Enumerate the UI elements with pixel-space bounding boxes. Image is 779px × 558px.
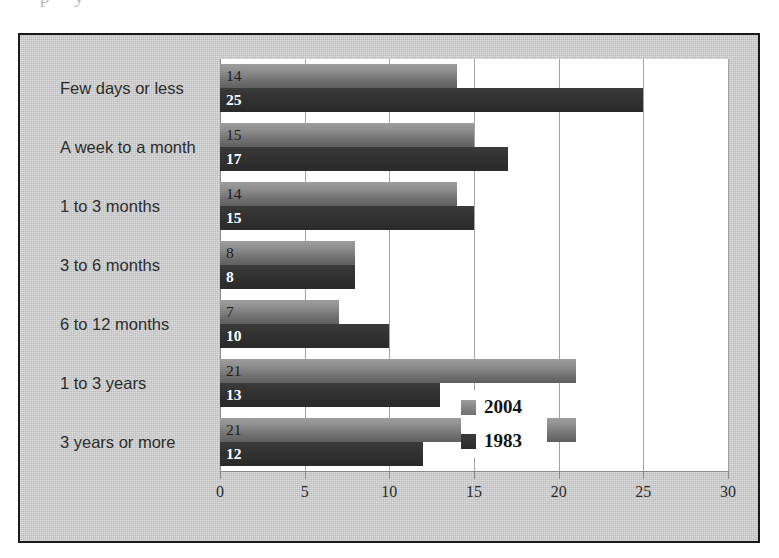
tick-0	[220, 471, 221, 479]
bar-2004: 21	[220, 359, 576, 383]
bar-1983: 12	[220, 442, 423, 466]
bar-group: 1425	[220, 64, 728, 112]
category-label: 3 years or more	[60, 427, 216, 457]
bar-value-label: 14	[226, 64, 242, 88]
bar-value-label: 21	[226, 418, 242, 442]
bar-group: 1517	[220, 123, 728, 171]
tick-label: 30	[708, 483, 748, 501]
bar-value-label: 13	[226, 383, 242, 407]
bleed-glyphs: p y	[40, 0, 94, 8]
bar-1983: 17	[220, 147, 508, 171]
legend-swatch-1983	[461, 434, 476, 449]
value-axis: 051015202530	[220, 471, 728, 517]
bar-value-label: 14	[226, 182, 242, 206]
tick-30	[728, 471, 729, 479]
bar-1983: 15	[220, 206, 474, 230]
bar-1983: 13	[220, 383, 440, 407]
category-label: A week to a month	[60, 132, 216, 162]
bar-2004: 14	[220, 182, 457, 206]
tick-label: 20	[539, 483, 579, 501]
bar-group: 710	[220, 300, 728, 348]
category-label: Few days or less	[60, 73, 216, 103]
tick-label: 5	[285, 483, 325, 501]
cut-off-text-above-figure: p y	[0, 0, 779, 16]
tick-25	[643, 471, 644, 479]
tick-label: 15	[454, 483, 494, 501]
bar-value-label: 8	[226, 241, 234, 265]
bar-group: 1415	[220, 182, 728, 230]
bar-value-label: 10	[226, 324, 242, 348]
tick-label: 25	[623, 483, 663, 501]
category-label: 6 to 12 months	[60, 309, 216, 339]
bar-value-label: 21	[226, 359, 242, 383]
tick-15	[474, 471, 475, 479]
legend-label: 1983	[484, 430, 522, 452]
bar-value-label: 7	[226, 300, 234, 324]
tick-label: 0	[200, 483, 240, 501]
category-label: 1 to 3 years	[60, 368, 216, 398]
chart-legend: 20041983	[461, 390, 547, 458]
bar-1983: 10	[220, 324, 389, 348]
category-axis: Few days or lessA week to a month1 to 3 …	[20, 59, 220, 471]
category-label: 1 to 3 months	[60, 191, 216, 221]
bar-2004: 8	[220, 241, 355, 265]
legend-swatch-2004	[461, 400, 476, 415]
tick-5	[305, 471, 306, 479]
chart-figure: Few days or lessA week to a month1 to 3 …	[18, 33, 760, 543]
gridline-30	[728, 59, 729, 471]
bar-1983: 8	[220, 265, 355, 289]
bar-value-label: 15	[226, 123, 242, 147]
bar-group: 88	[220, 241, 728, 289]
bar-value-label: 17	[226, 147, 242, 171]
legend-label: 2004	[484, 396, 522, 418]
bar-1983: 25	[220, 88, 643, 112]
tick-20	[559, 471, 560, 479]
bar-value-label: 15	[226, 206, 242, 230]
category-label: 3 to 6 months	[60, 250, 216, 280]
bar-value-label: 25	[226, 88, 242, 112]
bar-2004: 15	[220, 123, 474, 147]
tick-label: 10	[369, 483, 409, 501]
bar-value-label: 8	[226, 265, 234, 289]
tick-10	[389, 471, 390, 479]
legend-item-2004: 2004	[461, 390, 547, 424]
legend-item-1983: 1983	[461, 424, 547, 458]
bar-2004: 14	[220, 64, 457, 88]
bar-value-label: 12	[226, 442, 242, 466]
bar-2004: 7	[220, 300, 339, 324]
